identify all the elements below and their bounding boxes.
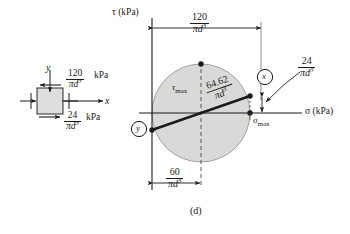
- element-shear-unit: kPa: [94, 71, 108, 81]
- top-dimension-denominator: πd3: [190, 23, 209, 35]
- element-shear-denominator: πd3: [66, 79, 84, 90]
- tau-axis-label: τ (kPa): [112, 8, 139, 18]
- bottom-dimension-denominator: πd3: [166, 178, 183, 190]
- sigma-axis-label: σ (kPa): [305, 107, 333, 117]
- element-y-axis-label: y: [46, 63, 50, 73]
- leader-dimension-fraction: 24 πd3: [298, 56, 315, 78]
- figure-mohrs-circle: y x 120 πd3 kPa 24 πd3 kPa τ (kPa) σ (kP…: [0, 0, 350, 234]
- element-x-axis-label: x: [105, 96, 109, 106]
- element-shear-stress-fraction: 120 πd3: [66, 69, 84, 90]
- point-x-label: x: [262, 72, 266, 81]
- x-data-point: [247, 93, 252, 98]
- top-dimension-fraction: 120 πd3: [190, 12, 209, 34]
- mohr-circle-group: [131, 18, 302, 190]
- element-normal-denominator: πd3: [64, 121, 81, 132]
- figure-caption: (d): [190, 206, 202, 216]
- sigma-max-label: σmax: [253, 116, 270, 128]
- stress-element-group: [20, 70, 103, 117]
- diagram-vector-layer: [0, 0, 350, 234]
- element-normal-unit: kPa: [86, 113, 100, 123]
- tau-max-label: τmax: [172, 83, 187, 95]
- leader-dimension-denominator: πd3: [298, 67, 315, 79]
- element-normal-stress-fraction: 24 πd3: [64, 111, 81, 132]
- tau-max-point: [198, 61, 203, 66]
- point-y-label: y: [136, 124, 140, 133]
- y-data-point: [149, 127, 154, 132]
- bottom-dimension-fraction: 60 πd3: [166, 167, 183, 189]
